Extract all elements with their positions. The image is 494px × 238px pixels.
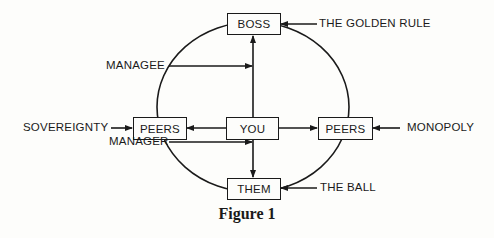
label-manager: MANAGER	[109, 135, 169, 147]
figure-caption: Figure 1	[0, 205, 494, 223]
label-golden-rule: THE GOLDEN RULE	[319, 17, 431, 29]
label-monopoly: MONOPOLY	[407, 121, 474, 133]
label-sovereignty: SOVEREIGNTY	[23, 121, 108, 133]
node-you: YOU	[226, 117, 279, 140]
node-them: THEM	[227, 178, 281, 200]
label-the-ball: THE BALL	[320, 181, 376, 193]
node-peers-right: PEERS	[318, 117, 373, 140]
node-boss: BOSS	[227, 13, 281, 35]
label-managee: MANAGEE	[106, 59, 165, 71]
